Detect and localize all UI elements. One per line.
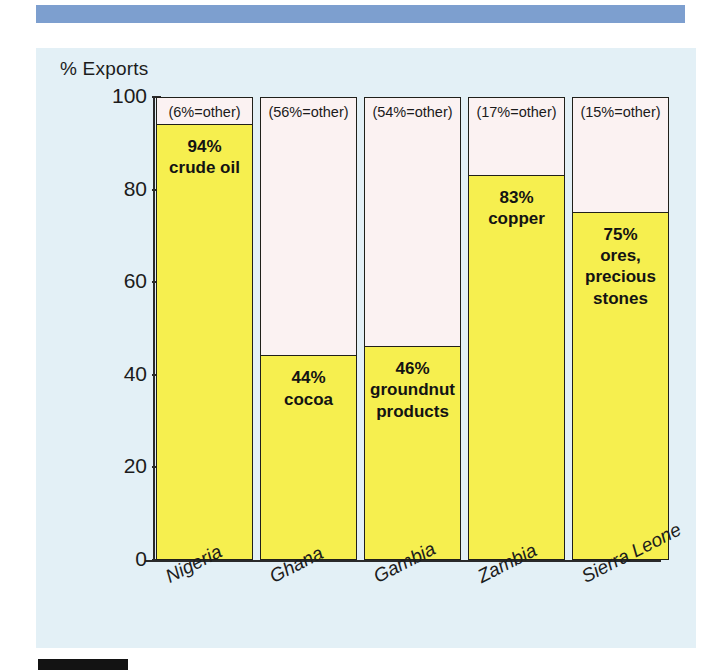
bar-percent-text: 75% xyxy=(573,224,668,245)
bar-other-label: (17%=other) xyxy=(469,104,564,120)
bar-commodity-text: groundnut products xyxy=(365,379,460,422)
bar-percent-text: 94% xyxy=(157,136,252,157)
bar-nigeria: (6%=other)94%crude oil xyxy=(156,97,253,560)
bar-zambia: (17%=other)83%copper xyxy=(468,97,565,560)
bar-percent-text: 46% xyxy=(365,358,460,379)
plot-area: 100806040200 (6%=other)94%crude oil(56%=… xyxy=(36,48,696,648)
bar-commodity-text: copper xyxy=(469,208,564,229)
y-axis-line xyxy=(153,97,155,561)
top-decorative-rule xyxy=(36,5,685,23)
y-tick-label: 60 xyxy=(124,269,147,293)
bar-ghana: (56%=other)44%cocoa xyxy=(260,97,357,560)
y-tick-label: 40 xyxy=(124,362,147,386)
bar-other-label: (56%=other) xyxy=(261,104,356,120)
bar-fill: 44%cocoa xyxy=(261,355,356,559)
y-tick-label: 80 xyxy=(124,177,147,201)
bar-commodity-text: crude oil xyxy=(157,157,252,178)
y-tick-label: 0 xyxy=(135,547,147,571)
y-tick-label: 100 xyxy=(112,84,147,108)
bar-other-label: (15%=other) xyxy=(573,104,668,120)
bar-fill: 94%crude oil xyxy=(157,124,252,559)
bar-sierra-leone: (15%=other)75%ores, precious stones xyxy=(572,97,669,560)
bar-fill: 75%ores, precious stones xyxy=(573,212,668,559)
bar-commodity-text: ores, precious stones xyxy=(573,245,668,309)
bar-gambia: (54%=other)46%groundnut products xyxy=(364,97,461,560)
bar-commodity-text: cocoa xyxy=(261,389,356,410)
bar-fill: 83%copper xyxy=(469,175,564,559)
bar-fill: 46%groundnut products xyxy=(365,346,460,559)
bar-value-label: 44%cocoa xyxy=(261,367,356,410)
bar-value-label: 94%crude oil xyxy=(157,136,252,179)
bar-percent-text: 44% xyxy=(261,367,356,388)
bar-other-label: (54%=other) xyxy=(365,104,460,120)
chart-panel: % Exports 100806040200 (6%=other)94%crud… xyxy=(36,48,696,648)
y-tick-label: 20 xyxy=(124,454,147,478)
bar-value-label: 83%copper xyxy=(469,187,564,230)
bottom-decorative-rule xyxy=(38,659,128,670)
bar-other-label: (6%=other) xyxy=(157,104,252,120)
bar-value-label: 46%groundnut products xyxy=(365,358,460,422)
bar-percent-text: 83% xyxy=(469,187,564,208)
bar-value-label: 75%ores, precious stones xyxy=(573,224,668,309)
